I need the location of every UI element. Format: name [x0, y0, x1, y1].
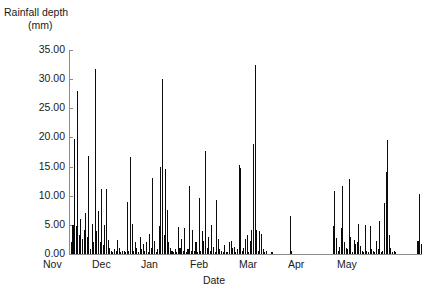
bar — [379, 221, 380, 254]
bar — [421, 244, 422, 254]
x-axis-tick-label: Nov — [43, 258, 62, 270]
x-axis-tick-label: Dec — [92, 258, 111, 270]
bar — [365, 225, 366, 254]
bar — [266, 251, 267, 254]
y-axis-title-line1: Rainfall depth — [4, 6, 68, 19]
x-axis-tick-label: Apr — [288, 258, 304, 270]
y-axis-tick-label: 5.00 — [23, 218, 65, 230]
y-axis-tick-label: 35.00 — [23, 43, 65, 55]
y-axis-tick-label: 10.00 — [23, 189, 65, 201]
bar — [95, 69, 96, 254]
bar — [127, 202, 128, 254]
x-axis-title: Date — [0, 274, 428, 286]
y-axis-title-line2: (mm) — [28, 19, 53, 32]
bar — [77, 91, 78, 254]
x-axis-tick-label: Mar — [239, 258, 257, 270]
bar — [189, 186, 190, 254]
y-axis-tick-label: 15.00 — [23, 160, 65, 172]
x-axis-tick-label: May — [337, 258, 357, 270]
bar — [184, 228, 185, 254]
rainfall-bar-chart: Rainfall depth (mm) 0.005.0010.0015.0020… — [0, 0, 428, 294]
bar — [199, 198, 200, 254]
bar — [395, 252, 396, 254]
bar — [205, 151, 206, 254]
bar — [132, 224, 133, 254]
bar — [290, 216, 291, 254]
y-axis-tick-mark — [69, 254, 73, 255]
bar — [162, 79, 163, 254]
bar — [255, 65, 256, 254]
y-axis-tick-label: 20.00 — [23, 130, 65, 142]
bar — [88, 156, 89, 254]
bar — [240, 168, 241, 254]
y-axis-tick-label: 25.00 — [23, 101, 65, 113]
x-axis-tick-label: Jan — [141, 258, 158, 270]
y-axis-tick-label: 30.00 — [23, 72, 65, 84]
bar — [272, 252, 273, 254]
x-axis-line — [69, 254, 422, 255]
bars-layer — [69, 50, 422, 254]
x-axis-tick-label: Feb — [190, 258, 208, 270]
bar — [291, 251, 292, 254]
